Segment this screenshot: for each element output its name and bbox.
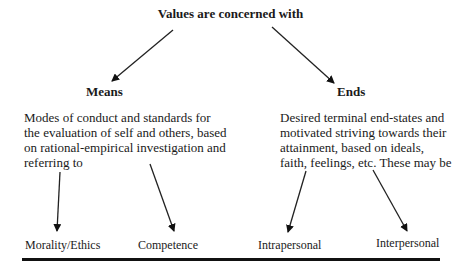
means-description-line: the evaluation of self and others, based xyxy=(24,125,244,140)
means-description: Modes of conduct and standards for the e… xyxy=(24,110,244,170)
ends-description-line: faith, feelings, etc. These may be xyxy=(280,155,460,170)
means-description-line: Modes of conduct and standards for xyxy=(24,110,244,125)
arrow-to-interpersonal xyxy=(373,170,407,231)
arrow-to-intrapersonal xyxy=(288,171,306,232)
bottom-rule xyxy=(22,258,440,261)
arrow-to-ends xyxy=(272,27,334,83)
arrow-to-competence xyxy=(150,164,174,231)
ends-description-line: attainment, based on ideals, xyxy=(280,140,460,155)
arrow-to-means xyxy=(112,30,173,81)
node-ends: Ends xyxy=(337,84,365,100)
ends-description: Desired terminal end-states and motivate… xyxy=(280,110,460,170)
means-description-line: referring to xyxy=(24,155,244,170)
ends-description-line: motivated striving towards their xyxy=(280,125,460,140)
ends-description-line: Desired terminal end-states and xyxy=(280,110,460,125)
leaf-competence: Competence xyxy=(138,238,198,253)
leaf-intrapersonal: Intrapersonal xyxy=(258,238,321,253)
means-description-line: on rational-empirical investigation and xyxy=(24,140,244,155)
leaf-morality-ethics: Morality/Ethics xyxy=(25,238,100,253)
leaf-interpersonal: Interpersonal xyxy=(376,236,439,251)
arrow-to-morality xyxy=(57,172,60,231)
node-means: Means xyxy=(86,84,123,100)
